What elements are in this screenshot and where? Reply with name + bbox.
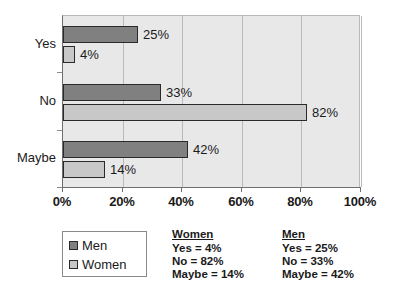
x-axis-tick [241, 187, 242, 192]
x-axis-tick [62, 187, 63, 192]
y-axis-label-maybe: Maybe [17, 150, 56, 165]
bar-women-maybe [63, 161, 105, 178]
legend-label-women: Women [82, 257, 127, 272]
legend: Men Women [62, 231, 147, 277]
legend-item-men: Men [69, 238, 107, 253]
bar-value-label-women-maybe: 14% [110, 162, 136, 177]
bar-value-label-men-maybe: 42% [193, 142, 219, 157]
y-axis-tick [57, 130, 62, 131]
y-axis-label-yes: Yes [35, 36, 56, 51]
bar-chart: 25%4%33%82%42%14% 0%20%40%60%80%100% Yes… [0, 0, 394, 296]
bar-men-maybe [63, 141, 188, 158]
bar-value-label-women-yes: 4% [80, 47, 99, 62]
y-axis-tick [57, 72, 62, 73]
bar-value-label-men-no: 33% [166, 85, 192, 100]
gridline [182, 16, 183, 187]
bar-value-label-men-yes: 25% [143, 27, 169, 42]
summary-men-line-no: No = 33% [282, 255, 354, 268]
y-axis-tick [57, 187, 62, 188]
summary-women-line-maybe: Maybe = 14% [172, 268, 244, 281]
bar-women-no [63, 104, 307, 121]
gridline [361, 16, 362, 187]
x-axis-tick [181, 187, 182, 192]
bar-men-yes [63, 26, 138, 43]
x-axis-tick-label: 60% [228, 194, 253, 209]
x-axis-tick-label: 20% [109, 194, 134, 209]
x-axis-line [62, 187, 361, 188]
legend-item-women: Women [69, 257, 127, 272]
y-axis-label-no: No [39, 93, 56, 108]
legend-swatch-men-icon [69, 241, 78, 250]
x-axis-tick [122, 187, 123, 192]
gridline [301, 16, 302, 187]
gridline [242, 16, 243, 187]
legend-label-men: Men [82, 238, 107, 253]
x-axis-tick [360, 187, 361, 192]
summary-women-line-yes: Yes = 4% [172, 242, 244, 255]
x-axis-tick [300, 187, 301, 192]
plot-area: 25%4%33%82%42%14% [62, 15, 360, 187]
summary-men: Men Yes = 25% No = 33% Maybe = 42% [282, 228, 354, 281]
legend-swatch-women-icon [69, 260, 78, 269]
y-axis-category-labels: YesNoMaybe [0, 15, 56, 187]
bar-women-yes [63, 46, 75, 63]
bar-value-label-women-no: 82% [312, 105, 338, 120]
bar-men-no [63, 84, 161, 101]
summary-men-line-yes: Yes = 25% [282, 242, 354, 255]
x-axis-tick-label: 80% [287, 194, 312, 209]
x-axis-tick-label: 40% [168, 194, 193, 209]
x-axis-tick-label: 0% [53, 194, 71, 209]
summary-women-line-no: No = 82% [172, 255, 244, 268]
summary-men-line-maybe: Maybe = 42% [282, 268, 354, 281]
summary-women: Women Yes = 4% No = 82% Maybe = 14% [172, 228, 244, 281]
summary-women-heading: Women [172, 228, 244, 241]
x-axis-tick-label: 100% [344, 194, 376, 209]
summary-men-heading: Men [282, 228, 354, 241]
